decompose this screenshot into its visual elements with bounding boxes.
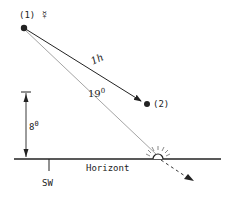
direction-sw-label: SW [42,178,53,188]
point-1-dot [21,25,27,31]
point-2-label: (2) [153,99,169,109]
altitude-arrowhead-top [24,94,29,102]
horizon-label: Horizont [86,163,129,173]
diagram-canvas: (1) ☿ (2) 1h 190 80 Horizont SW [0,0,233,200]
motion-arrow [24,28,141,101]
motion-label: 1h [89,51,105,66]
point-1-label: (1) [19,10,35,20]
mercury-symbol-icon: ☿ [40,8,49,22]
angle-to-sun-label: 190 [88,87,105,99]
point-2-dot [144,101,150,107]
altitude-label: 80 [29,120,39,132]
dashed-arrowhead-icon [184,174,194,181]
dashed-extension [161,160,188,178]
altitude-arrowhead-bottom [24,149,29,157]
